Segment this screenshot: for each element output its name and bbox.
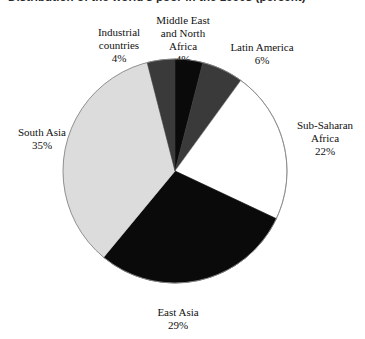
label-percent: 29% — [140, 319, 216, 332]
label-line: East Asia — [157, 306, 198, 318]
label-line: Latin America — [230, 41, 293, 53]
label-percent: 22% — [288, 145, 362, 158]
figure-container: Distribution of the world's poor in the … — [0, 0, 365, 339]
label-line: Africa — [311, 132, 339, 144]
label-line: countries — [99, 39, 139, 51]
label-percent: 4% — [88, 52, 150, 65]
label-line: Industrial — [98, 26, 140, 38]
slice-label-sub-saharan-africa: Sub-Saharan Africa 22% — [288, 119, 362, 158]
slice-label-latin-america: Latin America 6% — [219, 41, 305, 67]
label-line: Sub-Saharan — [297, 119, 353, 131]
pie-slice-group — [63, 59, 287, 283]
label-line: Middle East — [156, 14, 209, 26]
slice-label-east-asia: East Asia 29% — [140, 306, 216, 332]
slice-label-middle-east-north-africa: Middle East and North Africa 4% — [152, 14, 214, 66]
label-percent: 35% — [4, 139, 80, 152]
label-line: South Asia — [18, 126, 66, 138]
slice-label-south-asia: South Asia 35% — [4, 126, 80, 152]
label-percent: 6% — [219, 54, 305, 67]
label-line: Africa — [169, 40, 197, 52]
label-percent: 4% — [152, 53, 214, 66]
label-line: and North — [161, 27, 205, 39]
slice-label-industrial-countries: Industrial countries 4% — [88, 26, 150, 65]
